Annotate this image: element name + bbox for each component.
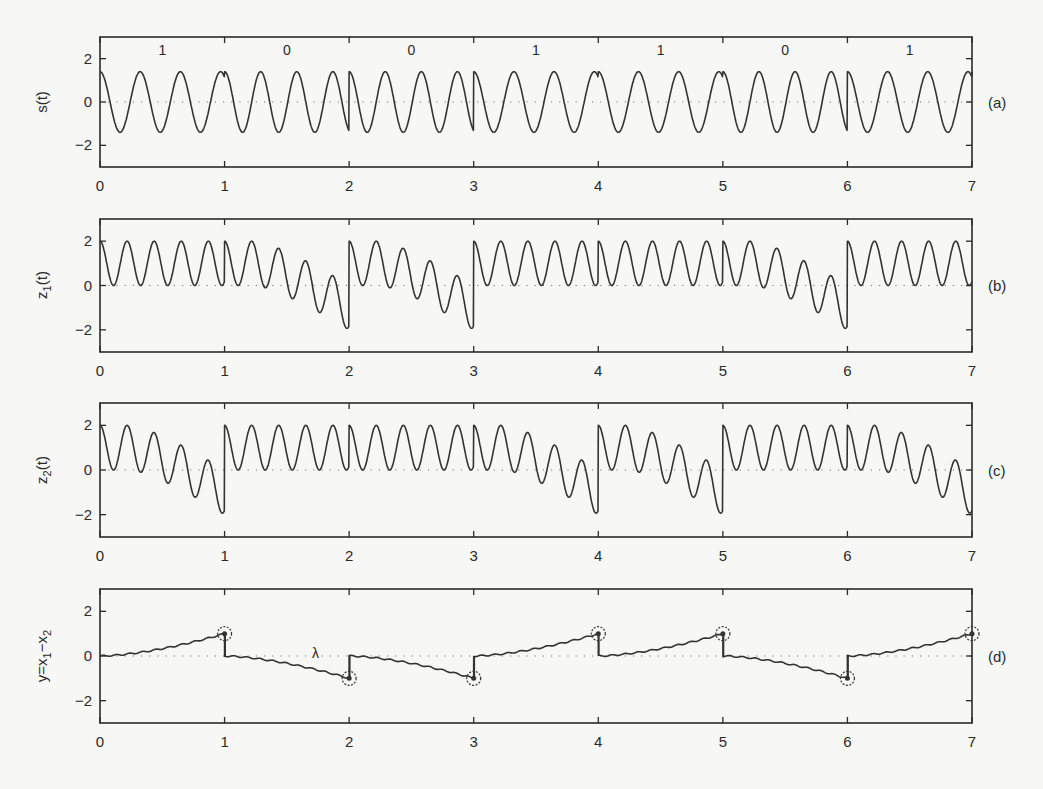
bit-label: 0 xyxy=(408,42,416,58)
y-tick-label: −2 xyxy=(75,321,92,338)
x-tick-label: 6 xyxy=(843,547,851,564)
axes-frame xyxy=(100,219,972,352)
x-tick-label: 6 xyxy=(843,362,851,379)
x-tick-label: 3 xyxy=(470,733,478,750)
bit-label: 1 xyxy=(158,42,166,58)
x-tick-label: 4 xyxy=(594,177,602,194)
x-tick-label: 2 xyxy=(345,362,353,379)
x-tick-label: 2 xyxy=(345,547,353,564)
panel-a-tag: (a) xyxy=(988,94,1006,111)
panel-c-ylabel: z2(t) xyxy=(33,456,53,484)
panel-c-axes: 0123456720−2 xyxy=(75,403,976,564)
y-tick-label: −2 xyxy=(75,506,92,523)
panel-d-axes: 0123456720−2 xyxy=(75,589,976,750)
y-tick-label: 2 xyxy=(84,602,92,619)
x-tick-label: 0 xyxy=(96,547,104,564)
x-tick-label: 0 xyxy=(96,362,104,379)
x-tick-label: 2 xyxy=(345,177,353,194)
x-tick-label: 1 xyxy=(220,177,228,194)
y-tick-label: 0 xyxy=(84,277,92,294)
panel-a-ylabel: s(t) xyxy=(33,91,50,113)
x-tick-label: 1 xyxy=(220,733,228,750)
x-tick-label: 4 xyxy=(594,547,602,564)
x-tick-label: 1 xyxy=(220,362,228,379)
bit-label: 0 xyxy=(283,42,291,58)
panel-a-axes: 0123456720−2 xyxy=(75,37,976,194)
panel-b-z1-of-t: 0123456720−2 z1(t) (b) xyxy=(33,219,1006,379)
panel-c-tag: (c) xyxy=(988,462,1006,479)
panel-a-s-of-t: 0123456720−2 1001101 s(t) (a) xyxy=(33,37,1006,194)
x-tick-label: 7 xyxy=(968,547,976,564)
y-tick-label: 2 xyxy=(84,50,92,67)
sample-marker-dot xyxy=(720,631,725,636)
y-tick-label: 0 xyxy=(84,647,92,664)
y-tick-label: 0 xyxy=(84,461,92,478)
x-tick-label: 1 xyxy=(220,547,228,564)
bit-label: 0 xyxy=(781,42,789,58)
y-tick-label: 2 xyxy=(84,416,92,433)
bit-label: 1 xyxy=(906,42,914,58)
x-tick-label: 5 xyxy=(719,177,727,194)
x-tick-label: 0 xyxy=(96,733,104,750)
x-tick-label: 7 xyxy=(968,362,976,379)
panel-b-tag: (b) xyxy=(988,277,1006,294)
y-tick-label: 0 xyxy=(84,93,92,110)
panel-b-z1-curve xyxy=(100,241,972,328)
panel-b-ylabel: z1(t) xyxy=(33,271,53,299)
panel-a-bit-labels: 1001101 xyxy=(158,42,913,58)
sample-marker-dot xyxy=(347,676,352,681)
y-tick-label: −2 xyxy=(75,692,92,709)
axes-frame xyxy=(100,403,972,537)
panel-c-z2-of-t: 0123456720−2 z2(t) (c) xyxy=(33,403,1006,564)
panel-c-z2-curve xyxy=(100,425,972,513)
y-tick-label: −2 xyxy=(75,136,92,153)
panel-d-tag: (d) xyxy=(988,648,1006,665)
panel-a-signal-curve xyxy=(100,72,972,133)
x-tick-label: 2 xyxy=(345,733,353,750)
x-tick-label: 7 xyxy=(968,177,976,194)
x-tick-label: 6 xyxy=(843,733,851,750)
sample-marker-dot xyxy=(222,631,227,636)
x-tick-label: 3 xyxy=(470,177,478,194)
x-tick-label: 5 xyxy=(719,362,727,379)
panel-d-ylabel: y=x1−x2 xyxy=(33,630,53,682)
bit-label: 1 xyxy=(657,42,665,58)
x-tick-label: 4 xyxy=(594,733,602,750)
y-tick-label: 2 xyxy=(84,232,92,249)
lambda-annotation: λ xyxy=(312,645,319,661)
x-tick-label: 7 xyxy=(968,733,976,750)
x-tick-label: 5 xyxy=(719,547,727,564)
sample-marker-dot xyxy=(596,631,601,636)
figure: 0123456720−2 1001101 s(t) (a) 0123456720… xyxy=(0,0,1043,789)
x-tick-label: 3 xyxy=(470,547,478,564)
x-tick-label: 5 xyxy=(719,733,727,750)
x-tick-label: 3 xyxy=(470,362,478,379)
bit-label: 1 xyxy=(532,42,540,58)
x-tick-label: 4 xyxy=(594,362,602,379)
sample-marker-dot xyxy=(471,676,476,681)
x-tick-label: 0 xyxy=(96,177,104,194)
panel-d-y-difference: 0123456720−2 λ y=x1−x2 (d) xyxy=(33,589,1006,750)
sample-marker-dot xyxy=(845,676,850,681)
panel-d-y-curve xyxy=(100,633,972,678)
sample-marker-dot xyxy=(970,631,975,636)
x-tick-label: 6 xyxy=(843,177,851,194)
